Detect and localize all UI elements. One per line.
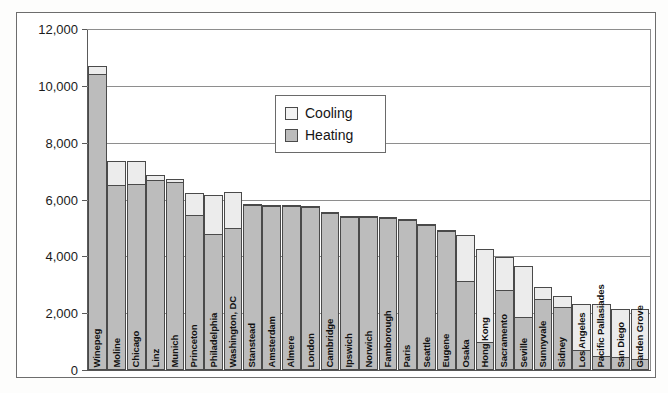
y-tick-label-0: 0 [71,363,78,378]
bar-segment-cooling [437,230,456,232]
legend-label-cooling: Cooling [305,106,352,120]
bar-segment-heating [243,205,262,370]
y-tick-mark-0 [82,370,87,371]
chart-frame: 02,0004,0006,0008,00010,00012,000 Winepe… [16,12,656,378]
legend-label-heating: Heating [305,128,353,142]
bars-layer: WinepegMolineChicagoLinzMunichPrincetonP… [88,29,650,370]
bar-group: Almere [282,29,301,370]
bar-segment-cooling [611,309,630,359]
y-tick-mark-12000 [82,29,87,30]
bar-segment-cooling [107,161,126,187]
bar-segment-heating [166,182,185,370]
bar-segment-cooling [514,266,533,319]
bar-group: Sunnyvale [534,29,553,370]
bar-group: Cambridge [321,29,340,370]
bar-group: Osaka [456,29,475,370]
bar-segment-cooling [224,192,243,229]
bar-segment-heating [476,342,495,370]
bar-segment-heating [88,74,107,370]
bar-segment-cooling [534,287,553,300]
bar-group: Sidney [553,29,572,370]
bar-segment-heating [107,185,126,370]
bar-segment-cooling [456,235,475,282]
bar-segment-cooling [166,179,185,183]
bar-group: London [301,29,320,370]
plot-area: 02,0004,0006,0008,00010,00012,000 Winepe… [87,29,651,370]
chart-figure: 02,0004,0006,0008,00010,00012,000 Winepe… [0,0,668,393]
bar-segment-cooling [146,175,165,181]
bar-segment-heating [340,217,359,370]
bar-segment-cooling [88,66,107,76]
bar-segment-heating [592,356,611,370]
bar-group: Eugene [437,29,456,370]
bar-group: Seattle [417,29,436,370]
bar-segment-cooling [204,195,223,235]
bar-segment-cooling [359,216,378,218]
bar-segment-heating [631,359,650,370]
bar-segment-heating [359,217,378,370]
bar-group: Seville [514,29,533,370]
bar-segment-cooling [398,219,417,221]
bar-segment-cooling [340,216,359,218]
bar-segment-cooling [553,296,572,309]
legend-swatch-heating-icon [285,129,298,142]
bar-segment-heating [572,350,591,370]
bar-segment-heating [437,231,456,370]
bar-segment-heating [185,215,204,370]
bar-group: Garden Grove [631,29,650,370]
bar-segment-cooling [185,193,204,216]
bar-segment-heating [611,357,630,370]
bar-group: San Diego [611,29,630,370]
bar-group: Munich [166,29,185,370]
bar-segment-heating [553,307,572,370]
bar-segment-cooling [495,257,514,291]
chart-legend: Cooling Heating [275,95,386,153]
bar-segment-cooling [417,224,436,226]
bar-segment-heating [534,299,553,370]
bar-segment-heating [127,184,146,370]
bar-segment-heating [224,228,243,370]
bar-segment-cooling [572,304,591,351]
y-tick-label-4000: 4,000 [45,249,78,264]
bar-group: Moline [107,29,126,370]
bar-group: Los Angeles [572,29,591,370]
bar-segment-cooling [592,304,611,357]
y-tick-mark-10000 [82,86,87,87]
bar-segment-heating [514,317,533,370]
bar-group: Washington, DC [224,29,243,370]
bar-segment-cooling [321,212,340,214]
bar-segment-cooling [262,205,281,207]
bar-group: Philadelphia [204,29,223,370]
y-tick-label-6000: 6,000 [45,192,78,207]
bar-group: Paris [398,29,417,370]
bar-segment-cooling [379,217,398,219]
bar-segment-heating [146,180,165,370]
y-tick-label-2000: 2,000 [45,306,78,321]
bar-segment-heating [379,218,398,370]
bar-group: Pacific Pallasiades [592,29,611,370]
bar-segment-heating [282,206,301,370]
legend-swatch-cooling-icon [285,107,298,120]
bar-group: Famborough [379,29,398,370]
bar-segment-heating [417,225,436,370]
bar-segment-heating [204,234,223,370]
legend-item-heating: Heating [285,124,385,146]
bar-group: Ipswich [340,29,359,370]
bar-group: Linz [146,29,165,370]
gridline-0 [87,370,651,371]
bar-segment-heating [301,207,320,370]
bar-segment-cooling [476,249,495,343]
bar-segment-cooling [282,205,301,207]
bar-segment-cooling [301,206,320,208]
legend-item-cooling: Cooling [285,102,385,124]
bar-group: Sacramento [495,29,514,370]
bar-segment-cooling [243,204,262,206]
y-tick-mark-4000 [82,256,87,257]
bar-group: Winepeg [88,29,107,370]
bar-group: Hong Kong [476,29,495,370]
y-tick-label-10000: 10,000 [38,78,78,93]
y-tick-label-8000: 8,000 [45,135,78,150]
bar-segment-heating [321,213,340,370]
bar-segment-heating [398,220,417,370]
bar-group: Norwich [359,29,378,370]
